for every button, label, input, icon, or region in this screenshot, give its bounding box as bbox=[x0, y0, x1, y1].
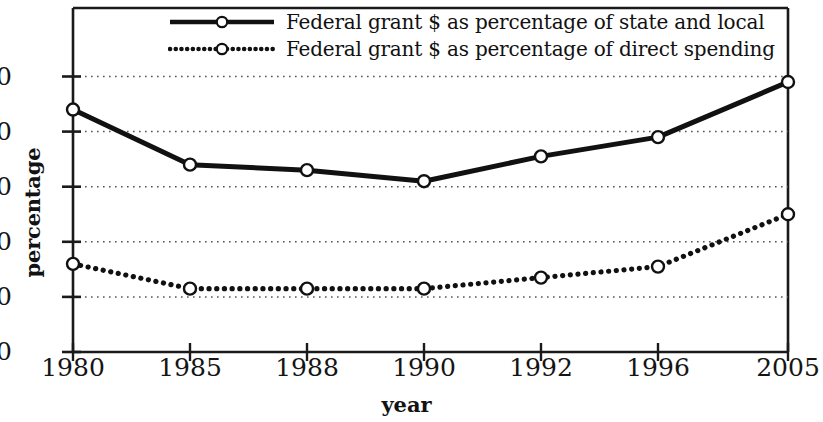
y-axis-tick-label: 10 bbox=[0, 284, 12, 309]
axis-ticks bbox=[62, 77, 788, 362]
x-axis-tick-label: 2005 bbox=[733, 355, 823, 380]
legend-swatch-solid-line bbox=[168, 11, 276, 33]
y-axis-tick-label: 30 bbox=[0, 174, 12, 199]
y-axis-title: percentage bbox=[20, 103, 45, 323]
x-axis-tick-label: 1980 bbox=[18, 355, 128, 380]
x-axis-tick-label: 1985 bbox=[135, 355, 245, 380]
legend-item-state-and-local: Federal grant $ as percentage of state a… bbox=[168, 8, 728, 35]
legend-swatch-dotted-line bbox=[168, 38, 276, 60]
chart-legend: Federal grant $ as percentage of state a… bbox=[168, 8, 728, 62]
x-axis-tick-label: 1990 bbox=[369, 355, 479, 380]
x-axis-tick-label: 1988 bbox=[252, 355, 362, 380]
legend-label: Federal grant $ as percentage of direct … bbox=[286, 37, 775, 61]
legend-item-direct-spending: Federal grant $ as percentage of direct … bbox=[168, 35, 728, 62]
y-axis-tick-label: 0 bbox=[0, 339, 12, 364]
y-axis-tick-label: 50 bbox=[0, 64, 12, 89]
y-axis-tick-label: 40 bbox=[0, 119, 12, 144]
legend-label: Federal grant $ as percentage of state a… bbox=[286, 10, 764, 34]
data-series bbox=[67, 76, 794, 295]
x-axis-tick-label: 1992 bbox=[486, 355, 596, 380]
y-axis-tick-label: 20 bbox=[0, 229, 12, 254]
x-axis-title: year bbox=[0, 392, 813, 417]
x-axis-tick-label: 1996 bbox=[603, 355, 713, 380]
gridlines bbox=[73, 77, 788, 297]
